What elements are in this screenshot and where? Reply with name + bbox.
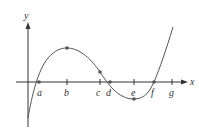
graph: x y a b c d e f g <box>0 0 199 130</box>
x-axis-label: x <box>189 76 195 87</box>
label-b: b <box>64 87 69 98</box>
label-e: e <box>131 87 136 98</box>
label-c: c <box>96 87 101 98</box>
label-g: g <box>169 87 174 98</box>
y-axis-arrow-icon <box>26 22 31 29</box>
label-a: a <box>37 87 42 98</box>
root-a-dot <box>37 80 41 84</box>
max-b-dot <box>65 46 69 50</box>
y-axis-label: y <box>23 10 29 21</box>
root-f-dot <box>152 80 156 84</box>
inflection-c-dot <box>98 70 102 74</box>
root-d-dot <box>108 80 112 84</box>
x-axis-arrow-icon <box>181 80 188 85</box>
label-d: d <box>106 87 112 98</box>
label-f: f <box>151 87 155 98</box>
